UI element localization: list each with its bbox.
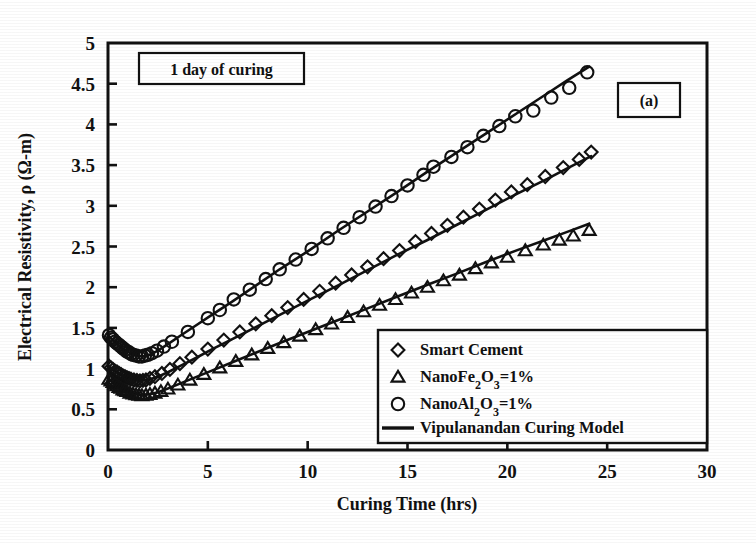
legend-item-label: Smart Cement xyxy=(420,340,524,359)
y-axis-title: Electrical Resistivity, ρ (Ω-m) xyxy=(15,133,36,361)
x-tick-label: 20 xyxy=(498,461,517,482)
y-tick-label: 4.5 xyxy=(71,74,95,95)
resistivity-vs-curing-time-chart: 051015202530 00.511.522.533.544.55 Curin… xyxy=(0,0,756,543)
y-title-suffix: (Ω-m) xyxy=(15,133,36,185)
y-title-rho-symbol: ρ xyxy=(15,185,35,195)
y-tick-label: 3 xyxy=(86,196,96,217)
y-tick-label: 0.5 xyxy=(71,399,95,420)
x-tick-label: 25 xyxy=(598,461,617,482)
svg-text:Electrical Resistivity, ρ (Ω-m: Electrical Resistivity, ρ (Ω-m) xyxy=(15,133,36,361)
chart-background xyxy=(0,0,756,543)
chart-legend: Smart CementNanoFe2O3=1%NanoAl2O3=1%Vipu… xyxy=(378,330,707,443)
x-tick-label: 0 xyxy=(103,461,113,482)
curing-annotation: 1 day of curing xyxy=(139,53,304,84)
panel-label: (a) xyxy=(618,83,680,117)
y-tick-label: 5 xyxy=(86,33,96,54)
curing-annotation-label: 1 day of curing xyxy=(170,61,273,79)
y-tick-label: 4 xyxy=(86,114,96,135)
x-tick-label: 30 xyxy=(698,461,717,482)
x-tick-label: 5 xyxy=(203,461,213,482)
y-tick-label: 1 xyxy=(86,359,96,380)
y-tick-label: 0 xyxy=(86,440,96,461)
y-tick-label: 2.5 xyxy=(71,237,95,258)
y-tick-label: 3.5 xyxy=(71,155,95,176)
x-tick-label: 10 xyxy=(298,461,317,482)
legend-item-label: Vipulanandan Curing Model xyxy=(420,418,624,437)
x-axis-title: Curing Time (hrs) xyxy=(337,494,477,515)
figure-container: 051015202530 00.511.522.533.544.55 Curin… xyxy=(0,0,756,543)
panel-label-text: (a) xyxy=(640,92,659,110)
y-tick-label: 1.5 xyxy=(71,318,95,339)
y-tick-label: 2 xyxy=(86,277,96,298)
y-title-prefix: Electrical Resistivity, xyxy=(15,195,35,361)
x-tick-label: 15 xyxy=(398,461,417,482)
